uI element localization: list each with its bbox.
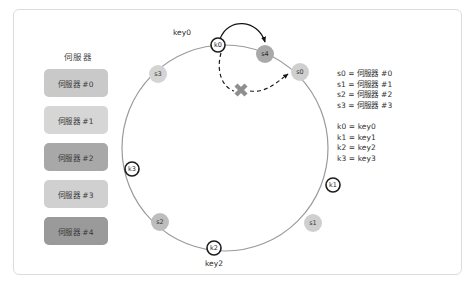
- key-node-label: k0: [214, 41, 222, 49]
- legend-row: s3 = 伺服器 #3: [337, 101, 392, 112]
- legend-group-keys: k0 = key0 k1 = key1 k2 = key2 k3 = key3: [337, 122, 392, 164]
- server-item-2[interactable]: 伺服器 #2: [44, 143, 108, 171]
- legend-panel: s0 = 伺服器 #0 s1 = 伺服器 #1 s2 = 伺服器 #2 s3 =…: [337, 69, 392, 175]
- legend-row: s2 = 伺服器 #2: [337, 90, 392, 101]
- key-node-label: k1: [329, 181, 337, 189]
- server-item-label: 伺服器 #0: [58, 78, 94, 89]
- server-node-label: s3: [154, 70, 162, 78]
- reroute-path-segment-a: [219, 53, 234, 91]
- key-node-label: k3: [128, 165, 136, 173]
- server-node-s0[interactable]: s0: [291, 63, 309, 81]
- server-node-label: s2: [156, 218, 164, 226]
- legend-row: k0 = key0: [337, 122, 392, 133]
- legend-row: s1 = 伺服器 #1: [337, 80, 392, 91]
- reroute-path-segment-b: [250, 74, 288, 91]
- key-node-k0[interactable]: k0: [211, 38, 225, 52]
- failure-cross-icon: [236, 85, 246, 95]
- server-node-label: s1: [309, 219, 317, 227]
- key-node-k1[interactable]: k1: [326, 178, 340, 192]
- legend-group-servers: s0 = 伺服器 #0 s1 = 伺服器 #1 s2 = 伺服器 #2 s3 =…: [337, 69, 392, 111]
- key-node-k3[interactable]: k3: [125, 162, 139, 176]
- server-item-0[interactable]: 伺服器 #0: [44, 69, 108, 97]
- hash-ring-diagram: s3 s4 s0 s1 s2 k0 k1 k2: [100, 9, 350, 275]
- server-item-4[interactable]: 伺服器 #4: [44, 217, 108, 245]
- server-item-label: 伺服器 #1: [58, 115, 94, 126]
- legend-row: k2 = key2: [337, 143, 392, 154]
- server-node-label: s0: [296, 68, 304, 76]
- server-node-s2[interactable]: s2: [151, 213, 169, 231]
- legend-row: k3 = key3: [337, 154, 392, 165]
- server-item-label: 伺服器 #2: [58, 152, 94, 163]
- legend-row: s0 = 伺服器 #0: [337, 69, 392, 80]
- server-node-s1[interactable]: s1: [304, 214, 322, 232]
- server-item-label: 伺服器 #4: [58, 226, 94, 237]
- server-node-s3[interactable]: s3: [149, 65, 167, 83]
- key-migration-arrow: [220, 24, 265, 42]
- server-node-s4[interactable]: s4: [256, 45, 274, 63]
- figure-canvas: 伺服器 伺服器 #0 伺服器 #1 伺服器 #2 伺服器 #3 伺服器 #4: [0, 0, 476, 287]
- server-node-label: s4: [261, 50, 269, 58]
- key-node-k2[interactable]: k2: [207, 241, 221, 255]
- server-item-1[interactable]: 伺服器 #1: [44, 106, 108, 134]
- ring-label-key0: key0: [173, 28, 191, 37]
- legend-row: k1 = key1: [337, 133, 392, 144]
- key-node-label: k2: [210, 244, 218, 252]
- server-item-3[interactable]: 伺服器 #3: [44, 180, 108, 208]
- ring-label-key2: key2: [205, 259, 223, 268]
- server-item-label: 伺服器 #3: [58, 189, 94, 200]
